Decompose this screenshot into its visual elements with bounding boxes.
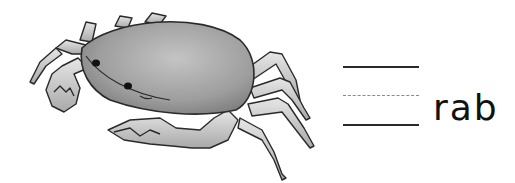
- word-ending: rab: [433, 88, 499, 128]
- writing-line-baseline[interactable]: [343, 124, 419, 126]
- crab-illustration: [0, 0, 330, 183]
- writing-line-midline: [343, 95, 419, 96]
- writing-line-top: [343, 66, 419, 68]
